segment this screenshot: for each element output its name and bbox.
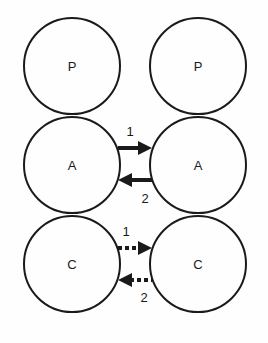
arrowhead-icon — [138, 141, 152, 155]
arrow-c-forward: 1 — [118, 224, 152, 255]
node-a-right: A — [150, 117, 246, 213]
node-a-left: A — [24, 117, 120, 213]
arrow-a-backward: 2 — [118, 173, 152, 206]
node-label: P — [68, 59, 77, 74]
diagram-canvas: P P A A C C 1 2 1 2 — [0, 0, 268, 343]
node-c-right: C — [150, 216, 246, 312]
arrow-label: 2 — [140, 290, 147, 305]
arrow-label: 1 — [122, 224, 129, 239]
node-label: C — [67, 257, 76, 272]
arrowhead-icon — [118, 273, 132, 287]
node-p-right: P — [150, 18, 246, 114]
node-label: C — [193, 257, 202, 272]
arrow-label: 2 — [141, 191, 148, 206]
node-label: A — [194, 158, 203, 173]
arrow-c-backward: 2 — [118, 273, 152, 305]
arrowhead-icon — [138, 241, 152, 255]
node-p-left: P — [24, 18, 120, 114]
node-label: A — [68, 158, 77, 173]
node-c-left: C — [24, 216, 120, 312]
arrow-label: 1 — [126, 124, 133, 139]
node-label: P — [194, 59, 203, 74]
arrowhead-icon — [118, 173, 132, 187]
arrow-a-forward: 1 — [118, 124, 152, 155]
